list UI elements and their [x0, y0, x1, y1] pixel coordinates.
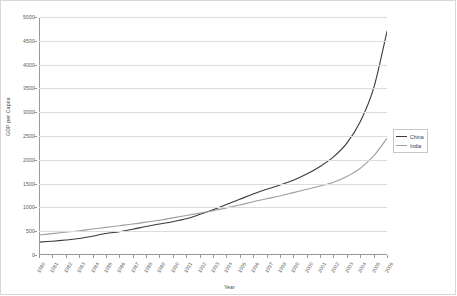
gridline [39, 231, 387, 232]
x-tick-mark [347, 255, 348, 258]
y-tick-mark [34, 88, 37, 89]
gridline [39, 88, 387, 89]
x-tick-label: 1980 [35, 261, 46, 274]
x-tick-mark [106, 255, 107, 258]
x-tick-label: 1986 [116, 261, 127, 274]
x-tick-label: 1991 [183, 261, 194, 274]
y-tick-mark [34, 160, 37, 161]
x-tick-label: 1988 [142, 261, 153, 274]
legend-item-china[interactable]: China [396, 132, 424, 141]
x-tick-label: 1982 [62, 261, 73, 274]
x-tick-mark [52, 255, 53, 258]
x-tick-mark [79, 255, 80, 258]
y-tick-mark [34, 184, 37, 185]
legend-item-india[interactable]: India [396, 141, 424, 150]
y-tick-mark [34, 17, 37, 18]
x-tick-mark [146, 255, 147, 258]
y-tick-mark [34, 65, 37, 66]
chart-frame: GDP per Capita 0500100015002000250030003… [0, 0, 456, 295]
x-tick-mark [133, 255, 134, 258]
x-tick-label: 1985 [102, 261, 113, 274]
x-tick-label: 2002 [330, 261, 341, 274]
y-tick-mark [34, 112, 37, 113]
x-tick-label: 2006 [383, 261, 394, 274]
x-tick-label: 1999 [290, 261, 301, 274]
x-tick-label: 1994 [223, 261, 234, 274]
x-tick-label: 2003 [343, 261, 354, 274]
gridline [39, 136, 387, 137]
x-tick-mark [159, 255, 160, 258]
legend-label: India [410, 143, 421, 149]
legend-swatch-icon [396, 136, 407, 137]
x-tick-mark [333, 255, 334, 258]
y-axis-ticks: 0500100015002000250030003500400045005000 [1, 17, 35, 255]
gridline [39, 41, 387, 42]
series-line-india [39, 138, 387, 235]
gridline [39, 184, 387, 185]
legend-swatch-icon [396, 145, 407, 146]
x-tick-label: 1995 [236, 261, 247, 274]
x-tick-label: 1987 [129, 261, 140, 274]
x-tick-label: 1993 [209, 261, 220, 274]
y-tick-mark [34, 136, 37, 137]
gridline [39, 160, 387, 161]
y-tick-mark [34, 255, 37, 256]
legend-label: China [410, 134, 424, 140]
x-tick-label: 1990 [169, 261, 180, 274]
x-tick-mark [200, 255, 201, 258]
x-tick-mark [360, 255, 361, 258]
x-tick-mark [267, 255, 268, 258]
gridline [39, 207, 387, 208]
y-tick-mark [34, 231, 37, 232]
gridline [39, 17, 387, 18]
gridline [39, 65, 387, 66]
x-tick-label: 2000 [303, 261, 314, 274]
x-tick-label: 1984 [89, 261, 100, 274]
x-tick-mark [39, 255, 40, 258]
chart-legend: ChinaIndia [393, 129, 428, 153]
x-tick-label: 2004 [357, 261, 368, 274]
x-tick-label: 1992 [196, 261, 207, 274]
y-tick-mark [34, 41, 37, 42]
x-tick-label: 1989 [156, 261, 167, 274]
x-tick-mark [66, 255, 67, 258]
x-tick-label: 1998 [276, 261, 287, 274]
x-axis-title: Year [1, 284, 457, 290]
x-tick-label: 1983 [75, 261, 86, 274]
x-tick-label: 2001 [316, 261, 327, 274]
y-tick-mark [34, 207, 37, 208]
x-tick-mark [93, 255, 94, 258]
x-tick-mark [253, 255, 254, 258]
x-tick-label: 1981 [49, 261, 60, 274]
x-tick-mark [213, 255, 214, 258]
gridline [39, 112, 387, 113]
plot-area [39, 17, 387, 255]
x-tick-mark [240, 255, 241, 258]
x-tick-mark [374, 255, 375, 258]
x-tick-mark [307, 255, 308, 258]
x-tick-label: 1996 [249, 261, 260, 274]
x-tick-label: 2005 [370, 261, 381, 274]
x-tick-mark [173, 255, 174, 258]
x-tick-mark [320, 255, 321, 258]
x-tick-mark [387, 255, 388, 258]
x-tick-mark [293, 255, 294, 258]
x-tick-mark [119, 255, 120, 258]
x-tick-mark [226, 255, 227, 258]
x-tick-mark [186, 255, 187, 258]
x-tick-mark [280, 255, 281, 258]
x-tick-label: 1997 [263, 261, 274, 274]
